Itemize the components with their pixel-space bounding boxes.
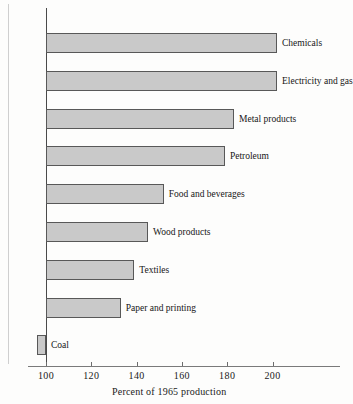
x-tick-label: 140 [128, 370, 144, 381]
bar-label: Wood products [153, 227, 211, 237]
bar-label: Petroleum [230, 151, 269, 161]
chart-figure: ChemicalsElectricity and gasMetal produc… [0, 0, 353, 404]
x-tick-label: 200 [264, 370, 280, 381]
bar-label: Coal [51, 340, 69, 350]
x-tick [91, 362, 92, 366]
bar-food-and-beverages [46, 184, 164, 204]
x-tick-label: 100 [38, 370, 54, 381]
x-tick [137, 362, 138, 366]
bar-label: Metal products [239, 114, 296, 124]
x-axis-title: Percent of 1965 production [112, 386, 226, 398]
bar-label: Electricity and gas [282, 76, 353, 86]
x-tick [46, 362, 47, 366]
bar-textiles [46, 260, 134, 280]
bar-petroleum [46, 146, 225, 166]
x-tick [227, 362, 228, 366]
x-tick-label: 160 [174, 370, 190, 381]
bar-label: Chemicals [282, 38, 322, 48]
bar-metal-products [46, 109, 234, 129]
x-axis-line [28, 366, 340, 367]
bar-chemicals [46, 33, 277, 53]
bar-electricity-and-gas [46, 71, 277, 91]
bar-label: Paper and printing [126, 303, 196, 313]
bar-label: Textiles [139, 265, 169, 275]
bar-coal [37, 335, 46, 355]
x-tick [273, 362, 274, 366]
bar-wood-products [46, 222, 148, 242]
x-tick-label: 120 [83, 370, 99, 381]
bar-label: Food and beverages [169, 189, 245, 199]
plot-area: ChemicalsElectricity and gasMetal produc… [0, 0, 353, 404]
bar-paper-and-printing [46, 298, 121, 318]
x-tick-label: 180 [219, 370, 235, 381]
x-tick [182, 362, 183, 366]
